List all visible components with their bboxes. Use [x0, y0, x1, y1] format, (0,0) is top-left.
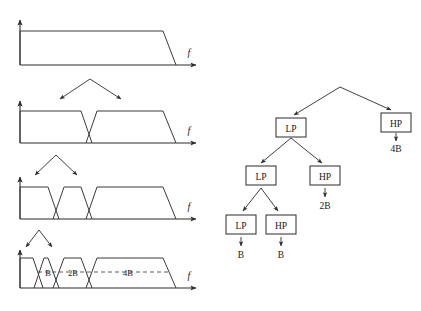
split-arrows-2 [35, 155, 77, 175]
split-arrow-3-right [39, 230, 52, 247]
plot3-band-2 [53, 187, 92, 219]
filter-bank-figure: f f [0, 0, 421, 311]
plot2-band-lp [20, 111, 92, 143]
plot1-axis-label: f [188, 47, 192, 58]
plot2-axis-label: f [188, 125, 192, 136]
tree-node-lp2-label: LP [255, 172, 266, 182]
split-arrow-2-right [56, 155, 77, 175]
split-arrow-1-right [90, 79, 121, 99]
tree-output-label-B-right: B [278, 250, 284, 260]
plot4-band-label-B: B [45, 268, 51, 278]
spectrum-plot-3: f [20, 177, 196, 219]
tree-output-label-2B: 2B [319, 201, 330, 211]
plot2-band-hp [86, 111, 176, 143]
plot3-axis-label: f [188, 201, 192, 212]
plot4-band-label-4B: 4B [123, 268, 133, 278]
plot3-band-3 [86, 187, 176, 219]
tree-output-label-B-left: B [238, 250, 244, 260]
tree-node-hp1-label: HP [390, 119, 402, 129]
spectrum-plot-2: f [20, 101, 196, 143]
tree-node-hp3-label: HP [275, 221, 287, 231]
tree-edge-lp1-to-hp2 [291, 138, 322, 163]
figure-container: f f [0, 0, 421, 311]
tree-edge-lp2-to-lp3 [243, 188, 261, 211]
split-arrows-1 [60, 79, 121, 99]
split-arrows-3 [26, 230, 52, 247]
plot3-band-1 [20, 187, 59, 219]
spectrum-plot-4: B 2B 4B f [20, 250, 196, 288]
tree-output-label-4B: 4B [390, 144, 401, 154]
filter-tree: LP HP 4B LP HP 2B LP B [226, 87, 411, 260]
plot4-band-label-2B: 2B [68, 268, 78, 278]
tree-node-lp3-label: LP [235, 221, 246, 231]
tree-node-hp2-label: HP [319, 172, 331, 182]
spectrum-plot-1: f [20, 20, 196, 65]
split-arrow-2-left [35, 155, 56, 175]
plot4-axis-label: f [188, 270, 192, 281]
tree-edge-root-to-lp1 [294, 87, 340, 115]
tree-edge-lp2-to-hp3 [261, 188, 278, 211]
tree-node-lp1-label: LP [285, 124, 296, 134]
tree-edge-lp1-to-lp2 [261, 138, 291, 163]
split-arrow-3-left [26, 230, 39, 247]
split-arrow-1-left [60, 79, 90, 99]
plot4-band-1 [20, 258, 43, 288]
tree-edge-root-to-hp1 [340, 87, 391, 110]
plot1-band-full [20, 31, 176, 65]
